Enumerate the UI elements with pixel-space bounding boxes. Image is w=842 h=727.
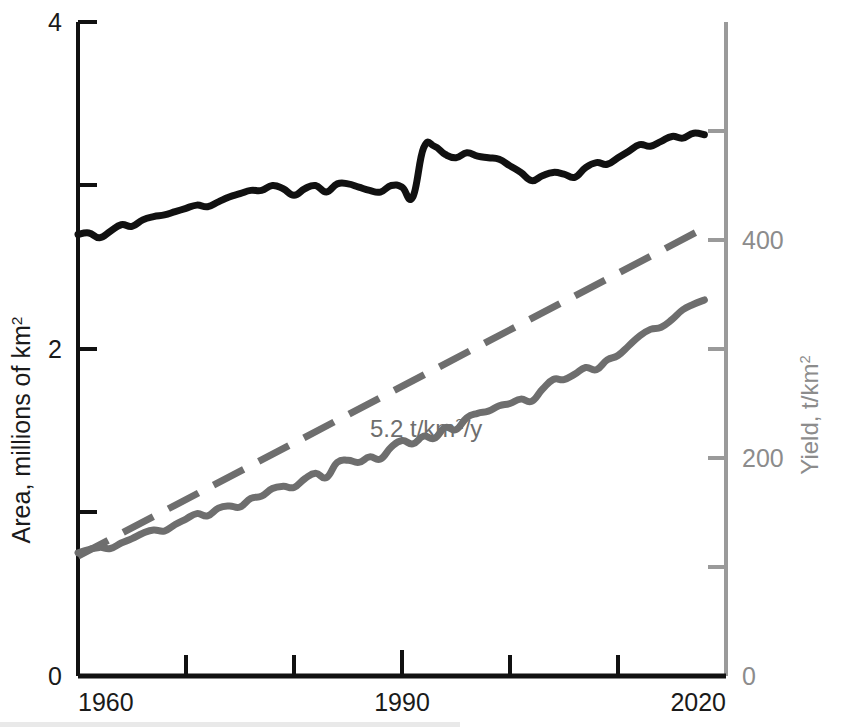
right-tick-label-200: 200 [742, 444, 784, 472]
right-axis-title: Yield, t/km2 [796, 355, 823, 474]
right-tick-label-400: 400 [742, 226, 784, 254]
right-axis-title-text: Yield, t/km [796, 364, 823, 475]
left-axis-title-text: Area, millions of km [7, 325, 35, 543]
x-axis: 1960 1990 2020 [78, 650, 726, 716]
svg-text:Yield, t/km2: Yield, t/km2 [796, 355, 823, 474]
trend-rate-annotation-text: 5.2 t/km [370, 415, 455, 442]
left-tick-label-0: 0 [48, 662, 62, 690]
left-axis-title: Area, millions of km2 [7, 317, 35, 544]
left-axis: 4 2 0 [48, 8, 97, 690]
yield-trend-line [78, 228, 704, 556]
chart-svg: 4 2 0 Area, millions of km2 400 200 0 Yi… [0, 0, 842, 727]
x-tick-label-1990: 1990 [374, 688, 430, 716]
area-series-line [78, 133, 704, 238]
figure-container: 4 2 0 Area, millions of km2 400 200 0 Yi… [0, 0, 842, 727]
left-tick-label-2: 2 [48, 335, 62, 363]
x-tick-label-2020: 2020 [670, 688, 726, 716]
svg-text:Area, millions of km2: Area, millions of km2 [7, 317, 35, 544]
x-tick-label-1960: 1960 [78, 688, 134, 716]
caption-cutoff-strip [0, 722, 460, 727]
right-tick-label-0: 0 [742, 662, 756, 690]
left-axis-title-superscript: 2 [8, 317, 25, 326]
trend-rate-annotation: 5.2 t/km2/y [370, 415, 482, 442]
right-axis-title-superscript: 2 [797, 355, 813, 363]
trend-rate-annotation-tail: /y [464, 415, 483, 442]
left-tick-label-4: 4 [48, 8, 62, 36]
right-axis: 400 200 0 [708, 22, 784, 690]
trend-rate-annotation-superscript: 2 [455, 416, 463, 432]
